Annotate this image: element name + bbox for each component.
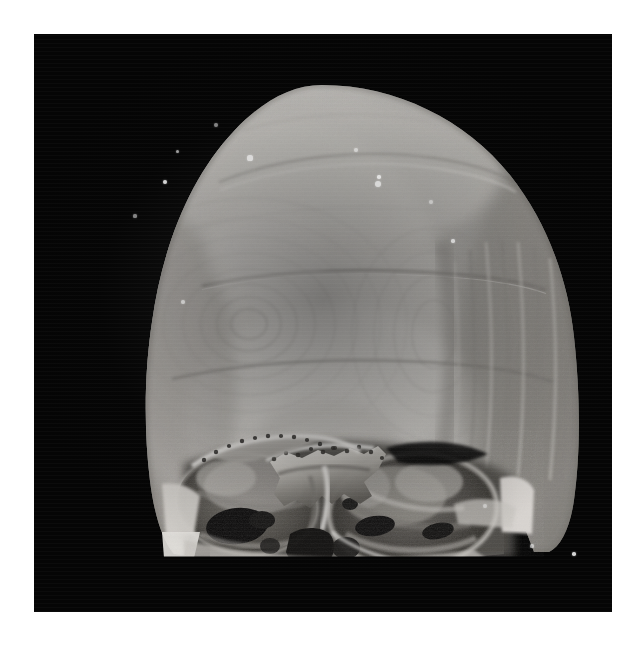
speckle-artifact-dot [133,214,136,217]
speckle-artifact-dot [483,504,487,508]
speckle-artifact-dot [572,552,576,556]
speckle-artifact-dot [354,148,358,152]
image-caption [0,0,1,1]
page-root [0,0,644,646]
speckle-artifact-dot [247,155,252,160]
skull-volume-svg [34,34,612,612]
skull-render [34,34,612,612]
speckle-artifact-dot [451,239,454,242]
ct-volume-rendering-viewport[interactable] [34,34,612,612]
speckle-artifact-dot [530,544,533,547]
inferior-clip-plane [34,558,612,612]
speckle-artifact-dot [377,175,381,179]
speckle-artifact-dot [375,181,381,187]
speckle-artifact-dot [176,150,179,153]
